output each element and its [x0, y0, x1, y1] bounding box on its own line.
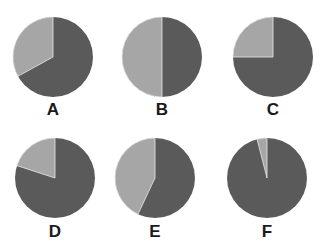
pie-label-e: E	[135, 222, 175, 242]
pie-label-b: B	[142, 100, 182, 120]
pie-label-c: C	[253, 100, 293, 120]
pie-label-a: A	[33, 100, 73, 120]
pie-label-f: F	[247, 222, 287, 242]
pie-slice-light	[233, 17, 273, 57]
pie-slice-light	[122, 17, 162, 97]
pie-label-d: D	[35, 222, 75, 242]
